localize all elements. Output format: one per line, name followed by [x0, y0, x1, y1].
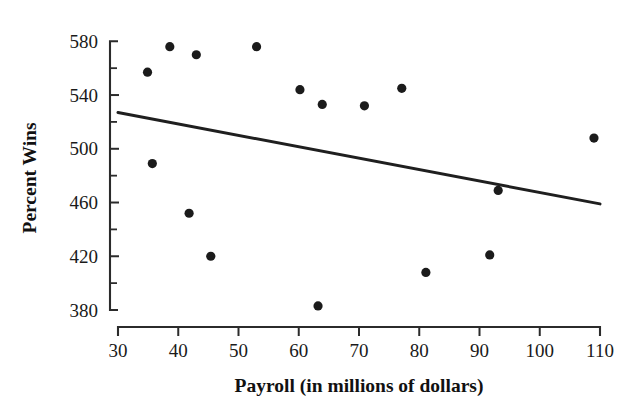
data-point	[360, 101, 369, 110]
data-point	[206, 252, 215, 261]
scatter-plot-figure: 580540500460420380 30405060708090100110 …	[0, 0, 642, 405]
data-points	[143, 42, 599, 310]
data-point	[165, 42, 174, 51]
y-tick-label: 500	[70, 138, 99, 159]
y-tick-label: 460	[70, 192, 99, 213]
x-tick-label: 60	[289, 340, 308, 361]
data-point	[589, 133, 598, 142]
x-axis	[118, 327, 600, 336]
y-axis-tick-labels: 580540500460420380	[70, 31, 99, 321]
data-point	[397, 84, 406, 93]
y-tick-label: 380	[70, 300, 99, 321]
x-tick-label: 50	[229, 340, 248, 361]
data-point	[318, 100, 327, 109]
x-tick-label: 100	[526, 340, 555, 361]
data-point	[485, 250, 494, 259]
x-tick-label: 90	[470, 340, 489, 361]
trend-line	[118, 113, 600, 204]
data-point	[421, 268, 430, 277]
x-tick-label: 80	[410, 340, 429, 361]
y-axis	[110, 41, 119, 310]
data-point	[143, 68, 152, 77]
data-point	[148, 159, 157, 168]
y-tick-label: 540	[70, 85, 99, 106]
data-point	[252, 42, 261, 51]
plot-canvas: 580540500460420380 30405060708090100110 …	[0, 0, 642, 405]
data-point	[192, 50, 201, 59]
data-point	[184, 209, 193, 218]
x-axis-title: Payroll (in millions of dollars)	[235, 375, 484, 397]
x-tick-label: 110	[586, 340, 614, 361]
x-tick-label: 70	[350, 340, 369, 361]
x-axis-tick-labels: 30405060708090100110	[109, 340, 614, 361]
data-point	[494, 186, 503, 195]
x-tick-label: 30	[109, 340, 128, 361]
data-point	[295, 85, 304, 94]
y-tick-label: 420	[70, 246, 99, 267]
y-axis-title: Percent Wins	[19, 122, 40, 233]
x-tick-label: 40	[169, 340, 188, 361]
regression-line	[118, 113, 600, 204]
data-point	[313, 301, 322, 310]
y-tick-label: 580	[70, 31, 99, 52]
